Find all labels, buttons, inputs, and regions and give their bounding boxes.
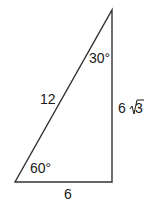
angle-bottom-left-label: 60° xyxy=(30,161,51,175)
triangle-figure xyxy=(0,0,151,214)
triangle xyxy=(15,10,112,182)
hypotenuse-label: 12 xyxy=(40,92,56,106)
long-leg-coefficient: 6 xyxy=(118,101,126,115)
long-leg-radicand: 3 xyxy=(135,101,143,115)
angle-top-label: 30° xyxy=(89,51,110,65)
short-leg-label: 6 xyxy=(64,187,72,201)
